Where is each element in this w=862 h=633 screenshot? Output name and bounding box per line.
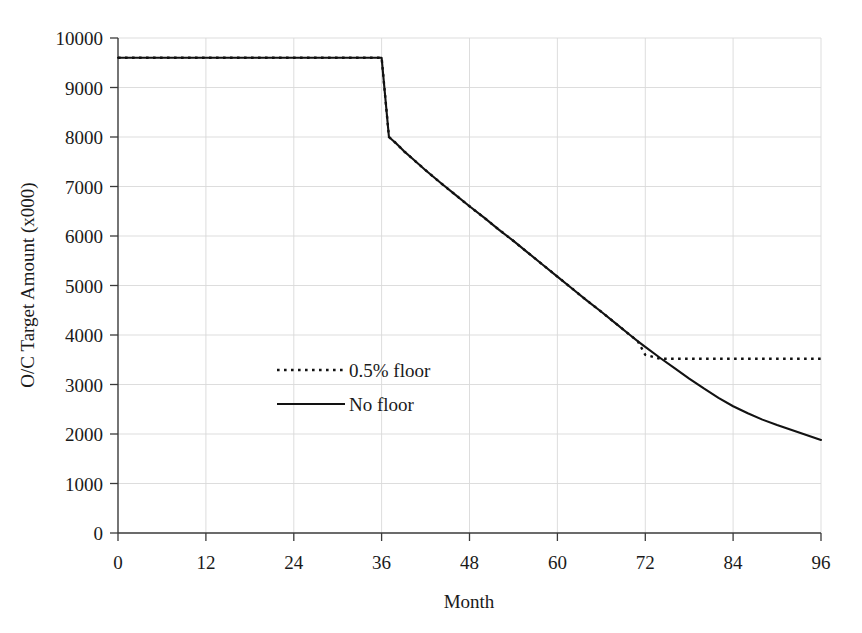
line-chart: 10000 9000 8000 7000 6000 5000 4000 3000… xyxy=(0,0,862,633)
x-tick-label: 96 xyxy=(812,552,831,573)
y-tick-label: 1000 xyxy=(65,474,103,495)
legend-label-floor: 0.5% floor xyxy=(349,360,431,381)
x-tick-label: 12 xyxy=(196,552,215,573)
x-tick-label: 48 xyxy=(460,552,479,573)
y-tick-label: 8000 xyxy=(65,127,103,148)
x-tick-label: 72 xyxy=(636,552,655,573)
x-tick-label: 60 xyxy=(548,552,567,573)
y-tick-label: 0 xyxy=(94,523,104,544)
x-axis-title: Month xyxy=(444,591,495,612)
y-tick-label: 2000 xyxy=(65,424,103,445)
y-axis-title: O/C Target Amount (x000) xyxy=(17,182,39,387)
y-tick-label: 7000 xyxy=(65,177,103,198)
x-tick-label: 24 xyxy=(284,552,304,573)
x-tick-label: 0 xyxy=(113,552,123,573)
x-tick-label: 36 xyxy=(372,552,391,573)
y-tick-label: 6000 xyxy=(65,226,103,247)
y-tick-label: 9000 xyxy=(65,78,103,99)
y-tick-label: 4000 xyxy=(65,325,103,346)
y-tick-label: 5000 xyxy=(65,276,103,297)
y-tick-label: 3000 xyxy=(65,375,103,396)
y-tick-label: 10000 xyxy=(56,28,104,49)
x-tick-label: 84 xyxy=(724,552,744,573)
chart-figure: 10000 9000 8000 7000 6000 5000 4000 3000… xyxy=(0,0,862,633)
legend-label-no-floor: No floor xyxy=(349,394,415,415)
